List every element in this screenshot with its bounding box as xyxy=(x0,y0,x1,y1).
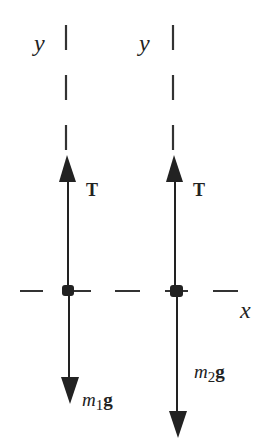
tension-arrow-2 xyxy=(166,155,183,291)
free-body-diagram: y y x T T m1g m2g xyxy=(0,0,272,448)
weight-arrow-1 xyxy=(61,291,79,404)
mass-1-point xyxy=(62,285,74,296)
y-axis-label-right: y xyxy=(137,30,150,56)
x-axis-label: x xyxy=(239,297,251,323)
tension-arrow-1 xyxy=(59,155,76,291)
mass-2-point xyxy=(170,285,183,297)
weight-arrow-2 xyxy=(169,291,187,438)
tension-label-2: T xyxy=(193,180,205,200)
weight-label-2: m2g xyxy=(194,361,225,385)
weight-label-1: m1g xyxy=(82,389,113,413)
tension-label-1: T xyxy=(86,180,98,200)
y-axis-label-left: y xyxy=(32,30,45,56)
